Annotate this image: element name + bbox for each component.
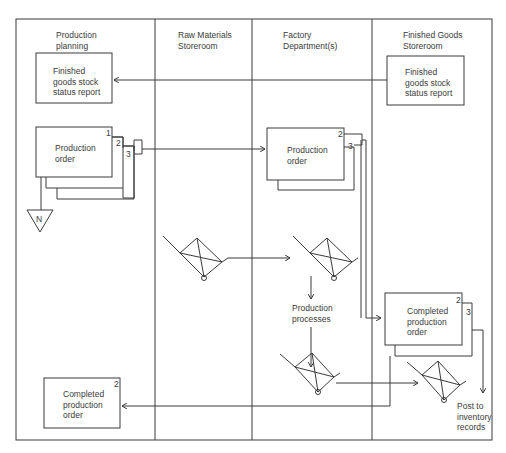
- lane-title-line: Department(s): [283, 41, 337, 52]
- doc-text: Finished: [53, 66, 100, 77]
- fg-completed-order-label: Completed production order: [407, 306, 448, 338]
- doc-text: status report: [53, 87, 100, 98]
- lane-title-line: Storeroom: [178, 41, 232, 52]
- lane-title-production-planning: Production planning: [56, 30, 97, 51]
- lane-title-line: Factory: [283, 30, 337, 41]
- process-text: Production: [292, 303, 333, 314]
- copy-number-2: 2: [116, 139, 121, 148]
- copy-number-1: 1: [106, 129, 111, 138]
- pp-completed-order-label: Completed production order: [63, 389, 104, 421]
- copy-number-3: 3: [466, 308, 471, 317]
- doc-text: goods stock: [53, 77, 100, 88]
- doc-text: production: [63, 400, 104, 411]
- doc-text: order: [63, 410, 104, 421]
- lane-title-line: planning: [56, 41, 97, 52]
- note-text: Post to: [457, 401, 492, 412]
- copy-number-2: 2: [456, 296, 461, 305]
- pp-production-order-label: Production order: [55, 143, 96, 164]
- copy-number-2: 2: [114, 380, 119, 389]
- cart-finished-goods: [407, 361, 466, 403]
- lane-title-raw-materials: Raw Materials Storeroom: [178, 30, 232, 51]
- doc-text: order: [287, 156, 328, 167]
- doc-text: Completed: [63, 389, 104, 400]
- doc-text: goods stock: [405, 78, 452, 89]
- factory-production-order-label: Production order: [287, 145, 328, 166]
- cart-factory-in: [293, 236, 358, 281]
- lane-title-line: Storeroom: [403, 41, 463, 52]
- cart-raw-materials: [163, 236, 228, 281]
- flowchart-canvas: Production planning Raw Materials Storer…: [0, 0, 506, 453]
- lane-title-factory: Factory Department(s): [283, 30, 337, 51]
- doc-text: production: [407, 317, 448, 328]
- arrow-completed-order-return: [122, 356, 390, 406]
- post-to-inventory-note: Post to inventory records: [457, 401, 492, 433]
- copy-number-2: 2: [338, 130, 343, 139]
- doc-text: Completed: [407, 306, 448, 317]
- lane-title-finished-goods: Finished Goods Storeroom: [403, 30, 463, 51]
- lane-title-line: Finished Goods: [403, 30, 463, 41]
- cart-factory-out: [280, 353, 340, 395]
- doc-text: Production: [287, 145, 328, 156]
- doc-text: Production: [55, 143, 96, 154]
- doc-text: order: [55, 154, 96, 165]
- note-text: inventory: [457, 412, 492, 423]
- lane-title-line: Production: [56, 30, 97, 41]
- production-processes-label: Production processes: [292, 303, 333, 324]
- copy-number-3: 3: [126, 150, 131, 159]
- doc-text: order: [407, 327, 448, 338]
- lane-title-line: Raw Materials: [178, 30, 232, 41]
- pp-status-report-label: Finished goods stock status report: [53, 66, 100, 98]
- process-text: processes: [292, 314, 333, 325]
- copy-number-3: 3: [348, 142, 353, 151]
- note-text: records: [457, 422, 492, 433]
- file-symbol-label: N: [36, 215, 44, 224]
- doc-text: Finished: [405, 67, 452, 78]
- arrow-post-inventory: [472, 330, 483, 393]
- fg-status-report-label: Finished goods stock status report: [405, 67, 452, 99]
- doc-text: status report: [405, 88, 452, 99]
